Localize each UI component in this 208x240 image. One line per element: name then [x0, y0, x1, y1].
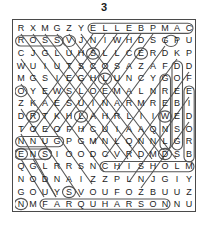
- grid-cell[interactable]: R: [183, 135, 195, 148]
- grid-cell[interactable]: E: [159, 98, 171, 111]
- grid-cell[interactable]: I: [183, 98, 195, 111]
- grid-cell[interactable]: G: [75, 135, 87, 148]
- grid-cell[interactable]: A: [123, 60, 135, 73]
- grid-cell[interactable]: H: [87, 72, 99, 85]
- grid-cell[interactable]: G: [15, 186, 27, 199]
- grid-cell[interactable]: F: [63, 123, 75, 136]
- grid-cell[interactable]: B: [183, 148, 195, 161]
- grid-cell[interactable]: G: [171, 135, 183, 148]
- grid-cell[interactable]: O: [27, 123, 39, 136]
- grid-cell[interactable]: R: [15, 35, 27, 48]
- grid-cell[interactable]: N: [123, 72, 135, 85]
- grid-cell[interactable]: C: [99, 148, 111, 161]
- grid-cell[interactable]: U: [183, 35, 195, 48]
- grid-cell[interactable]: L: [123, 173, 135, 186]
- grid-cell[interactable]: U: [87, 198, 99, 211]
- grid-cell[interactable]: C: [15, 47, 27, 60]
- grid-cell[interactable]: H: [75, 123, 87, 136]
- grid-cell[interactable]: G: [51, 135, 63, 148]
- grid-cell[interactable]: I: [171, 173, 183, 186]
- grid-cell[interactable]: C: [87, 60, 99, 73]
- grid-cell[interactable]: L: [99, 47, 111, 60]
- grid-cell[interactable]: L: [39, 161, 51, 174]
- grid-cell[interactable]: U: [99, 123, 111, 136]
- grid-cell[interactable]: Q: [123, 135, 135, 148]
- grid-cell[interactable]: N: [15, 135, 27, 148]
- grid-cell[interactable]: N: [27, 148, 39, 161]
- grid-cell[interactable]: T: [15, 123, 27, 136]
- grid-cell[interactable]: O: [75, 148, 87, 161]
- grid-cell[interactable]: E: [87, 22, 99, 35]
- grid-cell[interactable]: L: [123, 110, 135, 123]
- grid-cell[interactable]: O: [87, 186, 99, 199]
- grid-cell[interactable]: U: [39, 186, 51, 199]
- grid-cell[interactable]: D: [15, 110, 27, 123]
- grid-cell[interactable]: Y: [27, 85, 39, 98]
- grid-cell[interactable]: M: [159, 22, 171, 35]
- grid-cell[interactable]: P: [183, 47, 195, 60]
- grid-cell[interactable]: D: [159, 47, 171, 60]
- grid-cell[interactable]: A: [171, 22, 183, 35]
- grid-cell[interactable]: N: [99, 135, 111, 148]
- grid-cell[interactable]: I: [51, 72, 63, 85]
- grid-cell[interactable]: M: [111, 85, 123, 98]
- grid-cell[interactable]: H: [63, 110, 75, 123]
- grid-cell[interactable]: M: [147, 148, 159, 161]
- grid-cell[interactable]: H: [75, 47, 87, 60]
- grid-cell[interactable]: O: [27, 186, 39, 199]
- grid-cell[interactable]: S: [147, 35, 159, 48]
- grid-cell[interactable]: A: [147, 60, 159, 73]
- grid-cell[interactable]: R: [123, 148, 135, 161]
- grid-cell[interactable]: A: [39, 98, 51, 111]
- grid-cell[interactable]: F: [159, 60, 171, 73]
- grid-cell[interactable]: Q: [147, 123, 159, 136]
- grid-cell[interactable]: E: [135, 47, 147, 60]
- grid-cell[interactable]: R: [159, 85, 171, 98]
- grid-cell[interactable]: N: [135, 173, 147, 186]
- grid-cell[interactable]: D: [135, 35, 147, 48]
- grid-cell[interactable]: N: [51, 173, 63, 186]
- grid-cell[interactable]: A: [111, 98, 123, 111]
- grid-cell[interactable]: S: [63, 85, 75, 98]
- grid-cell[interactable]: E: [63, 72, 75, 85]
- grid-cell[interactable]: Y: [183, 173, 195, 186]
- grid-cell[interactable]: L: [159, 135, 171, 148]
- grid-cell[interactable]: L: [99, 22, 111, 35]
- grid-cell[interactable]: E: [51, 98, 63, 111]
- grid-cell[interactable]: G: [159, 35, 171, 48]
- grid-cell[interactable]: G: [75, 72, 87, 85]
- grid-cell[interactable]: V: [63, 35, 75, 48]
- grid-cell[interactable]: A: [123, 85, 135, 98]
- grid-cell[interactable]: D: [39, 173, 51, 186]
- grid-cell[interactable]: I: [123, 161, 135, 174]
- grid-cell[interactable]: P: [111, 173, 123, 186]
- grid-cell[interactable]: Y: [75, 22, 87, 35]
- grid-cell[interactable]: D: [87, 148, 99, 161]
- grid-cell[interactable]: I: [51, 148, 63, 161]
- grid-cell[interactable]: T: [63, 60, 75, 73]
- grid-cell[interactable]: S: [135, 198, 147, 211]
- grid-cell[interactable]: S: [63, 98, 75, 111]
- grid-cell[interactable]: I: [39, 60, 51, 73]
- grid-cell[interactable]: S: [135, 161, 147, 174]
- grid-cell[interactable]: K: [171, 47, 183, 60]
- grid-cell[interactable]: U: [183, 198, 195, 211]
- grid-cell[interactable]: O: [183, 123, 195, 136]
- letter-grid[interactable]: RXMGZYELLEBPMACROSSVJNIWHDSGPUCJGLUHSLLC…: [15, 22, 195, 211]
- grid-cell[interactable]: Z: [135, 60, 147, 73]
- grid-cell[interactable]: U: [111, 72, 123, 85]
- grid-cell[interactable]: L: [99, 72, 111, 85]
- grid-cell[interactable]: Z: [87, 173, 99, 186]
- grid-cell[interactable]: N: [15, 198, 27, 211]
- grid-cell[interactable]: I: [135, 110, 147, 123]
- grid-cell[interactable]: R: [51, 161, 63, 174]
- grid-cell[interactable]: R: [15, 22, 27, 35]
- grid-cell[interactable]: M: [135, 98, 147, 111]
- grid-cell[interactable]: N: [87, 35, 99, 48]
- grid-cell[interactable]: C: [99, 161, 111, 174]
- grid-cell[interactable]: C: [87, 123, 99, 136]
- grid-cell[interactable]: L: [111, 22, 123, 35]
- grid-cell[interactable]: B: [171, 98, 183, 111]
- grid-cell[interactable]: F: [183, 72, 195, 85]
- grid-cell[interactable]: S: [75, 60, 87, 73]
